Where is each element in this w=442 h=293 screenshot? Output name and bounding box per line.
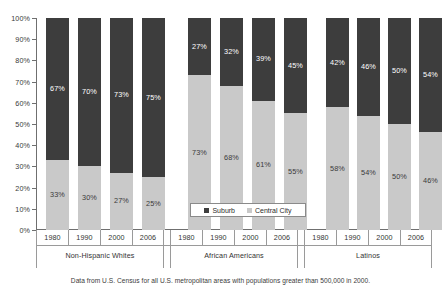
y-axis-tick	[32, 103, 36, 104]
bar-segment-label-suburb: 27%	[192, 43, 207, 50]
bar-segment-suburb: 45%	[284, 18, 307, 113]
plot-area: 0%10%20%30%40%50%60%70%80%90%100% 67%33%…	[36, 18, 432, 230]
x-axis-year-label: 1980	[304, 230, 336, 246]
y-axis-tick	[32, 124, 36, 125]
bar-segment-central-city: 33%	[46, 160, 69, 230]
x-axis-group-row: Non-Hispanic WhitesAfrican AmericansLati…	[36, 246, 432, 268]
x-axis-year-label: 1990	[202, 230, 234, 246]
bar-segment-central-city: 25%	[142, 177, 165, 230]
bar-segment-suburb: 70%	[78, 18, 101, 166]
x-axis-year-label: 1980	[170, 230, 202, 246]
bar-segment-central-city: 54%	[357, 116, 380, 230]
y-axis-tick	[32, 39, 36, 40]
x-axis-group-label: African Americans	[170, 246, 298, 268]
stacked-bar: 50%50%	[388, 18, 411, 230]
bar-segment-label-suburb: 73%	[114, 92, 129, 99]
y-axis-tick-label: 100%	[11, 14, 30, 23]
bar-segment-label-suburb: 54%	[423, 72, 438, 79]
bar-segment-label-central-city: 25%	[146, 200, 161, 207]
y-axis-tick-label: 0%	[19, 226, 30, 235]
x-axis-year-label: 2006	[400, 230, 432, 246]
bar-segment-label-suburb: 39%	[256, 56, 271, 63]
stacked-bar: 42%58%	[326, 18, 349, 230]
stacked-bar: 39%61%	[252, 18, 275, 230]
y-axis-tick-label: 80%	[15, 56, 30, 65]
bar-segment-label-central-city: 68%	[224, 154, 239, 161]
bar-segment-label-central-city: 33%	[50, 191, 65, 198]
y-axis-tick	[32, 18, 36, 19]
y-axis-tick	[32, 60, 36, 61]
y-axis-tick-label: 40%	[15, 141, 30, 150]
x-axis-year-row: 1980199020002006198019902000200619801990…	[36, 230, 432, 246]
bar-segment-label-suburb: 42%	[330, 59, 345, 66]
stacked-bar: 75%25%	[142, 18, 165, 230]
bar-segment-suburb: 50%	[388, 18, 411, 124]
x-axis-year-label: 2000	[368, 230, 400, 246]
x-axis-year-label: 2000	[234, 230, 266, 246]
x-axis-year-label: 2006	[132, 230, 164, 246]
stacked-bar: 54%46%	[419, 18, 442, 230]
y-axis-tick-label: 70%	[15, 77, 30, 86]
bar-segment-suburb: 75%	[142, 18, 165, 177]
bar-segment-suburb: 46%	[357, 18, 380, 116]
bar-segment-label-central-city: 50%	[392, 173, 407, 180]
legend-swatch-suburb	[204, 208, 209, 213]
y-axis-tick	[32, 209, 36, 210]
bar-segment-suburb: 54%	[419, 18, 442, 132]
bar-segment-suburb: 42%	[326, 18, 349, 107]
stacked-bar: 27%73%	[188, 18, 211, 230]
chart-footnote: Data from U.S. Census for all U.S. metro…	[0, 277, 441, 284]
bar-segment-label-suburb: 67%	[50, 85, 65, 92]
x-axis-group-label: Non-Hispanic Whites	[36, 246, 164, 268]
stacked-bar: 67%33%	[46, 18, 69, 230]
bar-segment-label-central-city: 46%	[423, 178, 438, 185]
x-axis-group-label: Latinos	[304, 246, 432, 268]
x-axis-year-label: 1980	[36, 230, 68, 246]
bar-segment-label-central-city: 55%	[288, 168, 303, 175]
stacked-bar: 70%30%	[78, 18, 101, 230]
bar-segment-suburb: 27%	[188, 18, 211, 75]
y-axis-tick-label: 50%	[15, 120, 30, 129]
y-axis-tick-label: 10%	[15, 204, 30, 213]
y-axis-tick	[32, 166, 36, 167]
x-axis-year-label: 2000	[100, 230, 132, 246]
x-axis-labels: 1980199020002006198019902000200619801990…	[36, 230, 432, 276]
bar-segment-suburb: 32%	[220, 18, 243, 86]
y-axis-tick	[32, 145, 36, 146]
bar-segment-label-central-city: 58%	[330, 165, 345, 172]
x-axis-year-label: 1990	[336, 230, 368, 246]
y-axis-tick-label: 60%	[15, 98, 30, 107]
stacked-bar: 32%68%	[220, 18, 243, 230]
bar-segment-label-suburb: 46%	[361, 63, 376, 70]
legend-item-central-city: Central City	[247, 207, 292, 214]
bar-segment-central-city: 58%	[326, 107, 349, 230]
bar-segment-central-city: 46%	[419, 132, 442, 230]
y-axis-tick-label: 90%	[15, 35, 30, 44]
legend-swatch-central-city	[247, 208, 252, 213]
bar-segment-label-suburb: 75%	[146, 94, 161, 101]
bar-segment-label-suburb: 70%	[82, 89, 97, 96]
stacked-bar: 46%54%	[357, 18, 380, 230]
bar-segment-suburb: 73%	[110, 18, 133, 173]
legend-item-suburb: Suburb	[204, 207, 235, 214]
bar-segment-label-central-city: 27%	[114, 198, 129, 205]
bar-segment-label-central-city: 73%	[192, 149, 207, 156]
bar-segment-central-city: 30%	[78, 166, 101, 230]
bar-segment-label-suburb: 32%	[224, 48, 239, 55]
y-axis-tick	[32, 82, 36, 83]
bar-segment-label-central-city: 61%	[256, 162, 271, 169]
bar-segment-suburb: 67%	[46, 18, 69, 160]
stacked-bar: 45%55%	[284, 18, 307, 230]
y-axis-tick	[32, 188, 36, 189]
x-axis-year-label: 2006	[266, 230, 298, 246]
bar-segment-label-central-city: 30%	[82, 195, 97, 202]
stacked-bar: 73%27%	[110, 18, 133, 230]
y-axis-line	[36, 18, 37, 230]
bar-segment-label-suburb: 50%	[392, 67, 407, 74]
x-axis-year-label: 1990	[68, 230, 100, 246]
bar-segment-label-suburb: 45%	[288, 62, 303, 69]
bar-segment-label-central-city: 54%	[361, 169, 376, 176]
legend-label-suburb: Suburb	[212, 207, 235, 214]
chart-legend: Suburb Central City	[190, 203, 306, 217]
